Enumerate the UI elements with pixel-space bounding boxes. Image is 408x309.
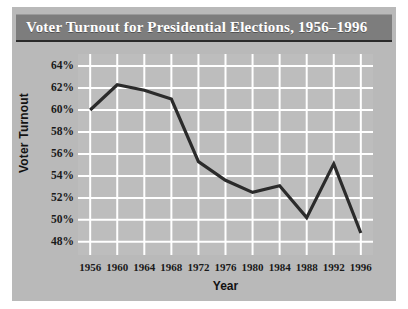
y-tick-label: 54% xyxy=(34,170,74,181)
data-line xyxy=(78,54,373,255)
y-tick-label: 50% xyxy=(34,214,74,225)
y-tick-label: 58% xyxy=(34,126,74,137)
y-tick-label: 56% xyxy=(34,148,74,159)
chart-title: Voter Turnout for Presidential Elections… xyxy=(26,19,367,36)
y-tick-label: 64% xyxy=(34,60,74,71)
y-axis-label: Voter Turnout xyxy=(17,78,31,188)
chart-figure: Voter Turnout for Presidential Elections… xyxy=(0,0,408,309)
y-tick-label: 48% xyxy=(34,236,74,247)
turnout-series-line xyxy=(90,85,361,233)
chart-title-banner: Voter Turnout for Presidential Elections… xyxy=(16,14,392,42)
y-tick-label: 62% xyxy=(34,82,74,93)
y-tick-label: 60% xyxy=(34,104,74,115)
x-axis-label: Year xyxy=(78,279,373,293)
y-tick-label: 52% xyxy=(34,192,74,203)
y-axis-tick-labels: 64%62%60%58%56%54%52%50%48% xyxy=(30,54,74,255)
x-tick-label: 1996 xyxy=(343,261,379,273)
plot-area xyxy=(78,54,373,255)
x-axis-tick-labels: 1956196019641968197219761980198419881992… xyxy=(78,261,373,277)
